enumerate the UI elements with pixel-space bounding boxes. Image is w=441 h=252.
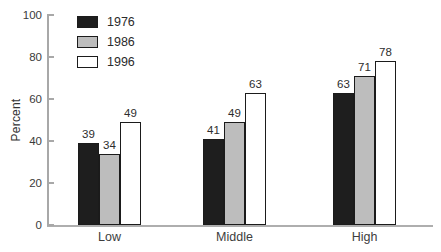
y-tick-mark <box>47 98 54 100</box>
legend-swatch-1996 <box>77 56 98 68</box>
legend-swatch-1986 <box>77 36 98 48</box>
y-tick-label: 80 <box>0 51 42 64</box>
bar-1976-low <box>78 143 99 225</box>
legend-item-1996: 1996 <box>77 52 135 72</box>
y-tick-label: 0 <box>0 219 42 232</box>
bar-chart: Percent 020406080100 393449414963637178 … <box>0 0 441 252</box>
bar-1986-middle <box>224 122 245 225</box>
legend-item-1986: 1986 <box>77 32 135 52</box>
y-tick-mark <box>47 224 54 226</box>
x-label-high: High <box>330 230 400 244</box>
y-tick-label: 100 <box>0 9 42 22</box>
bar-value-label: 78 <box>371 46 401 59</box>
legend-label-1996: 1996 <box>107 55 135 69</box>
bar-1986-low <box>99 154 120 225</box>
y-tick-mark <box>47 56 54 58</box>
bar-value-label: 49 <box>116 107 146 120</box>
bar-1996-high <box>375 61 396 225</box>
bar-1976-middle <box>203 139 224 225</box>
legend-item-1976: 1976 <box>77 12 135 32</box>
bar-1986-high <box>354 76 375 225</box>
x-label-middle: Middle <box>200 230 270 244</box>
x-axis-line <box>47 225 433 227</box>
legend: 1976 1986 1996 <box>77 12 135 72</box>
y-tick-label: 20 <box>0 177 42 190</box>
y-tick-label: 40 <box>0 135 42 148</box>
legend-label-1976: 1976 <box>107 15 135 29</box>
bar-1976-high <box>333 93 354 225</box>
y-axis-line <box>47 15 49 225</box>
bar-1996-low <box>120 122 141 225</box>
bar-value-label: 63 <box>241 78 271 91</box>
x-label-low: Low <box>75 230 145 244</box>
legend-label-1986: 1986 <box>107 35 135 49</box>
y-tick-mark <box>47 140 54 142</box>
y-tick-label: 60 <box>0 93 42 106</box>
bar-1996-middle <box>245 93 266 225</box>
legend-swatch-1976 <box>77 16 98 28</box>
y-tick-mark <box>47 182 54 184</box>
y-tick-mark <box>47 14 54 16</box>
